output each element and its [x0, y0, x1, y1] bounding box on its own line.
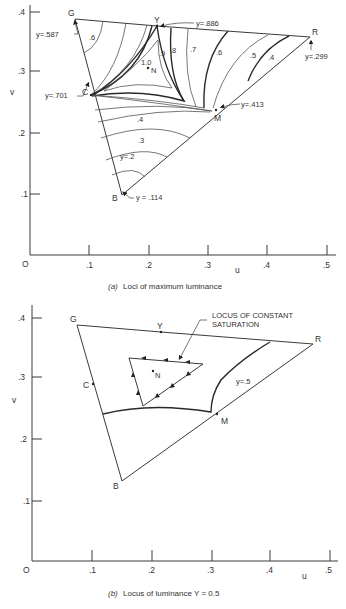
vertex-r: R: [315, 334, 321, 344]
vertex-c: C: [83, 380, 89, 390]
x-tick-label: .4: [266, 565, 273, 575]
vertex-g: G: [68, 8, 75, 18]
svg-text:.4: .4: [137, 115, 143, 124]
x-tick-label: .3: [207, 565, 214, 575]
x-tick-label: .4: [263, 260, 270, 270]
caption-a: (a) Loci of maximum luminance: [108, 282, 223, 291]
x-tick-label: .5: [325, 565, 332, 575]
vertex-y: Y: [154, 15, 160, 25]
x-tick-label: .5: [323, 260, 330, 270]
y-tick-label: .3: [18, 66, 25, 76]
vertex-labels-b: G Y R C M B: [70, 314, 321, 491]
svg-text:.3: .3: [138, 136, 144, 145]
x-axis-label: u: [302, 571, 307, 581]
svg-text:.4: .4: [268, 53, 274, 62]
vertex-n: N: [155, 371, 160, 380]
vertex-r: R: [312, 27, 318, 37]
svg-text:.8: .8: [170, 46, 176, 55]
origin-label: O: [23, 565, 30, 575]
annotation-g: y=.587: [36, 30, 59, 39]
figure-b: .4 .3 .2 .1 v O .1 .2 .3 .4 .5 u y=.5: [12, 305, 338, 598]
annotation-y: y=.886: [196, 19, 219, 28]
y-tick-label: .4: [18, 7, 25, 17]
x-tick-label: .3: [204, 260, 211, 270]
vertex-b: B: [112, 193, 118, 203]
caption-b: (b) Locus of luminance Y = 0.5: [108, 589, 220, 598]
svg-text:.6: .6: [216, 48, 222, 57]
y-tick-label: .2: [20, 434, 27, 444]
svg-text:y=.2: y=.2: [120, 152, 134, 161]
y-tick-label: .3: [18, 372, 25, 382]
annotation-m: y=.413: [241, 100, 264, 109]
curve-label: y=.5: [236, 377, 250, 386]
saturation-locus-b: N: [129, 356, 203, 406]
x-tick-label: .2: [145, 260, 152, 270]
luminance-locus-b: y=.5: [103, 342, 270, 414]
svg-text:1.0: 1.0: [141, 58, 151, 67]
y-axis-label: v: [12, 395, 17, 405]
x-tick-label: .1: [89, 565, 96, 575]
y-tick-label: .2: [18, 128, 25, 138]
annotation-b: y = .114: [136, 193, 162, 202]
svg-text:.7: .7: [190, 45, 196, 54]
vertex-y: Y: [157, 321, 163, 331]
origin-label: O: [22, 259, 29, 269]
gamut-triangle-b: [77, 325, 313, 481]
y-tick-label: .4: [18, 313, 25, 323]
annotation-c: y=.701: [45, 91, 68, 100]
x-tick-label: .1: [86, 260, 93, 270]
vertex-m: M: [214, 113, 221, 123]
vertex-n: N: [151, 66, 156, 75]
annotation-r: y=.299: [305, 52, 328, 61]
x-tick-label: .2: [148, 565, 155, 575]
annotations-a: y=.587 y=.886 y=.299 y=.701 y=.413 y = .…: [36, 19, 328, 202]
vertex-g: G: [70, 314, 77, 324]
luminance-contours-a: [84, 21, 289, 177]
vertex-b: B: [113, 481, 119, 491]
x-axis-label: u: [235, 265, 240, 275]
svg-text:.9: .9: [159, 49, 165, 58]
figure-canvas: .4 .3 .2 .1 v O .1 .2 .3 .4 .5 u: [0, 0, 346, 609]
callout-line1: LOCUS OF CONSTANT: [212, 311, 294, 320]
vertex-labels-a: G Y R C M B N: [68, 8, 318, 203]
callout-line2: SATURATION: [212, 320, 259, 329]
figure-a: .4 .3 .2 .1 v O .1 .2 .3 .4 .5 u: [10, 5, 336, 291]
svg-text:.6: .6: [89, 33, 95, 42]
y-axis-label: v: [10, 87, 15, 97]
y-tick-label: .1: [21, 189, 28, 199]
y-tick-label: .1: [23, 496, 30, 506]
vertex-m: M: [221, 416, 228, 426]
svg-text:.5: .5: [250, 51, 256, 60]
